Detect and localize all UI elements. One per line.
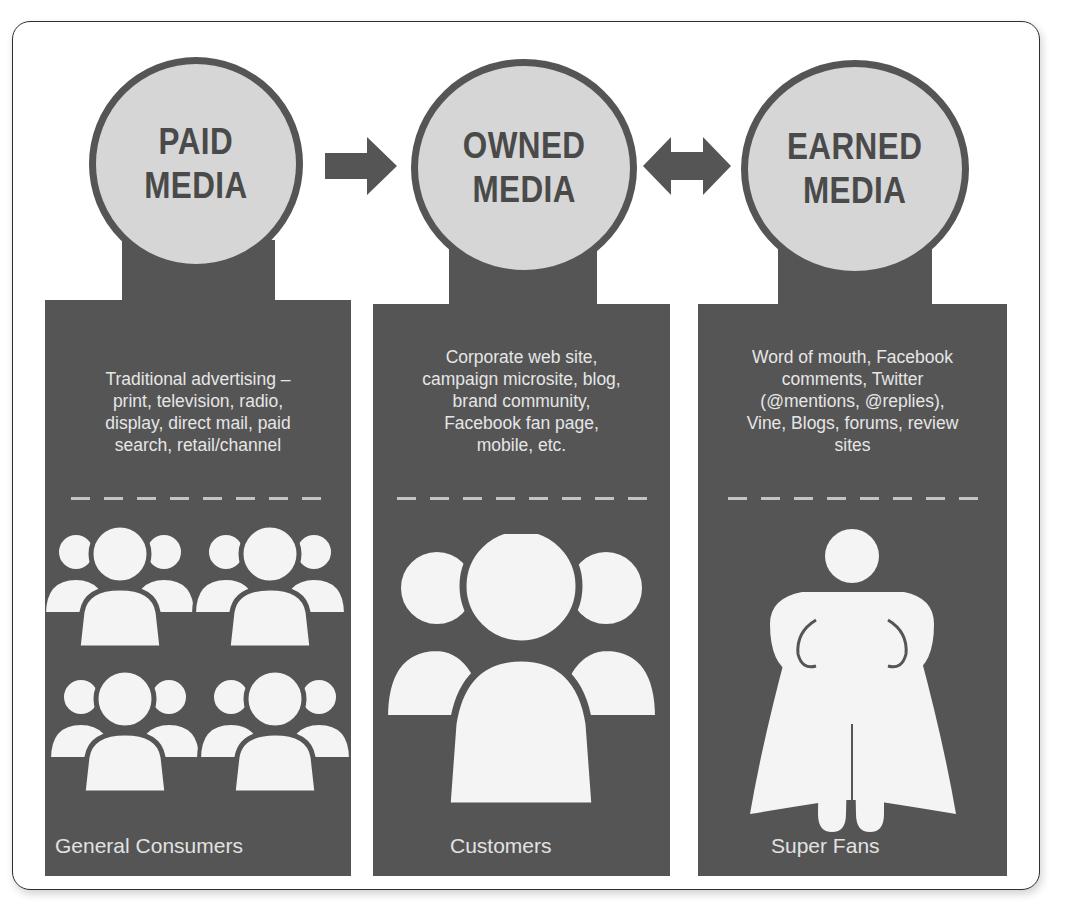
earned-media-title: EARNED MEDIA: [787, 125, 922, 213]
dashed-divider: [728, 497, 980, 500]
earned-media-panel: Word of mouth, Facebook comments, Twitte…: [698, 304, 1007, 876]
audience-label: Customers: [450, 834, 552, 858]
earned-media-circle: EARNED MEDIA: [741, 60, 969, 278]
crowd-icon: [45, 508, 351, 838]
paid-media-panel: Traditional advertising – print, televis…: [45, 300, 351, 876]
owned-media-description: Corporate web site, campaign microsite, …: [373, 346, 670, 456]
earned-media-description: Word of mouth, Facebook comments, Twitte…: [698, 346, 1007, 456]
dashed-divider: [71, 497, 331, 500]
group-icon: [373, 534, 670, 824]
right-arrow-icon: [325, 137, 397, 195]
paid-media-title: PAID MEDIA: [144, 120, 247, 208]
superhero-icon: [698, 514, 1007, 834]
paid-media-description: Traditional advertising – print, televis…: [45, 368, 351, 456]
owned-media-panel: Corporate web site, campaign microsite, …: [373, 304, 670, 876]
dashed-divider: [397, 497, 649, 500]
owned-media-circle: OWNED MEDIA: [411, 59, 637, 277]
paid-media-circle: PAID MEDIA: [89, 57, 303, 271]
audience-label: General Consumers: [55, 834, 243, 858]
audience-label: Super Fans: [771, 834, 880, 858]
owned-media-title: OWNED MEDIA: [463, 124, 586, 212]
double-arrow-icon: [643, 137, 731, 195]
